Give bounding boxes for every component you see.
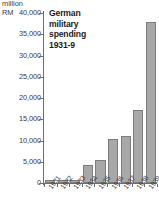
- x-axis-tick-mark: [107, 184, 108, 187]
- y-axis-tick-mark: [39, 183, 43, 184]
- y-axis-tick-label: 30,000: [3, 52, 41, 60]
- y-axis-tick-mark: [39, 119, 43, 120]
- y-axis-tick-mark: [39, 141, 43, 142]
- y-axis-tick-label: 5,000: [3, 158, 41, 166]
- chart-title: German military spending 1931-9: [49, 8, 115, 50]
- x-axis-tick-mark: [94, 184, 95, 187]
- y-axis-tick-label: 0: [3, 179, 41, 187]
- x-axis-tick-mark: [44, 184, 45, 187]
- chart-title-line-4: 1931-9: [49, 40, 115, 51]
- y-axis-tick-mark: [39, 162, 43, 163]
- y-axis-tick-mark: [39, 13, 43, 14]
- chart-title-line-1: German: [49, 8, 115, 19]
- x-axis-tick-mark: [157, 184, 158, 187]
- y-axis-tick-mark: [39, 77, 43, 78]
- x-axis-tick-mark: [132, 184, 133, 187]
- y-axis-tick-label: 25,000: [3, 73, 41, 81]
- y-axis-tick-label: 20,000: [3, 94, 41, 102]
- y-axis-tick-label: 10,000: [3, 137, 41, 145]
- x-axis-tick-mark: [57, 184, 58, 187]
- unit-line-2: RM: [2, 9, 32, 18]
- y-axis-labels: 05,00010,00015,00020,00025,00030,00035,0…: [0, 0, 41, 209]
- bar-1939: [146, 22, 156, 184]
- y-axis-tick-mark: [39, 34, 43, 35]
- x-axis-tick-mark: [144, 184, 145, 187]
- bar-1938: [133, 110, 143, 183]
- y-axis-unit-caption: million RM: [2, 0, 32, 17]
- chart-title-line-3: spending: [49, 29, 115, 40]
- x-axis-tick-mark: [82, 184, 83, 187]
- y-axis-tick-mark: [39, 98, 43, 99]
- y-axis-tick-label: 15,000: [3, 115, 41, 123]
- x-axis-tick-mark: [119, 184, 120, 187]
- chart-title-line-2: military: [49, 19, 115, 30]
- x-axis-tick-mark: [69, 184, 70, 187]
- x-axis-labels: 193119321933193419351936193719381939: [44, 186, 159, 209]
- chart-container: 05,00010,00015,00020,00025,00030,00035,0…: [0, 0, 159, 209]
- y-axis-tick-mark: [39, 56, 43, 57]
- y-axis-tick-label: 35,000: [3, 30, 41, 38]
